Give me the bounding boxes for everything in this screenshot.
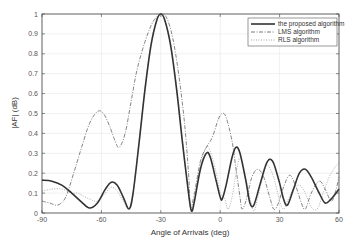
- legend-label-rls: RLS algorithm: [278, 36, 319, 44]
- x-tick-label: 60: [335, 216, 343, 223]
- x-axis-label: Angle of Arrivals (deg): [151, 228, 230, 237]
- y-axis-label: |AF| (dB): [10, 97, 19, 129]
- x-tick-label: 0: [218, 216, 222, 223]
- legend-label-proposed: the proposed algorithm: [278, 20, 345, 28]
- y-tick-label: 0.1: [28, 190, 38, 197]
- y-tick-label: 0.9: [28, 30, 38, 37]
- y-tick-label: 0.5: [28, 110, 38, 117]
- y-tick-label: 0.6: [28, 90, 38, 97]
- y-tick-label: 0.4: [28, 130, 38, 137]
- y-tick-label: 0.8: [28, 50, 38, 57]
- x-tick-label: -90: [37, 216, 47, 223]
- x-tick-label: -30: [156, 216, 166, 223]
- legend-label-lms: LMS algorithm: [278, 28, 320, 36]
- x-tick-label: -60: [96, 216, 106, 223]
- y-tick-label: 0.2: [28, 170, 38, 177]
- y-tick-label: 0.3: [28, 150, 38, 157]
- chart-figure: 00.10.20.30.40.50.60.70.80.91 -90-60-300…: [0, 0, 358, 243]
- y-tick-label: 0.7: [28, 70, 38, 77]
- y-tick-label: 1: [34, 11, 38, 18]
- x-tick-label: 30: [276, 216, 284, 223]
- legend: the proposed algorithm LMS algorithm RLS…: [248, 18, 345, 46]
